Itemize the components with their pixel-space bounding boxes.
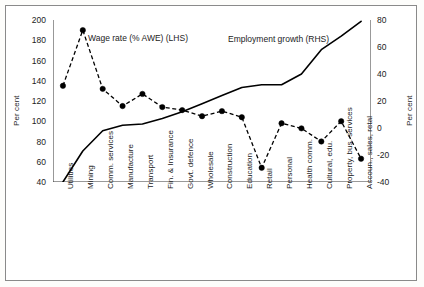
wage-point-3 bbox=[120, 103, 125, 108]
wage-point-8 bbox=[219, 108, 224, 113]
left-tick-label: 200 bbox=[20, 15, 46, 25]
left-tick-label: 40 bbox=[20, 177, 46, 187]
left-tick-label: 160 bbox=[20, 56, 46, 66]
wage-point-7 bbox=[199, 113, 204, 118]
right-tick-label: 60 bbox=[377, 42, 403, 52]
left-tick-label: 140 bbox=[20, 76, 46, 86]
wage-point-13 bbox=[319, 139, 324, 144]
wage-point-4 bbox=[140, 91, 145, 96]
wage-point-2 bbox=[100, 86, 105, 91]
wage-point-15 bbox=[358, 156, 363, 161]
wage-point-11 bbox=[279, 121, 284, 126]
axis-lines bbox=[53, 20, 371, 182]
right-tick-label: 20 bbox=[377, 96, 403, 106]
right-tick-label: 80 bbox=[377, 15, 403, 25]
wage-point-5 bbox=[160, 104, 165, 109]
wage-point-12 bbox=[299, 126, 304, 131]
right-tick-label: 0 bbox=[377, 123, 403, 133]
chart-figure: Per cent Per cent Wage rate (% AWE) (LHS… bbox=[0, 0, 424, 287]
left-tick-label: 80 bbox=[20, 137, 46, 147]
wage-point-10 bbox=[259, 165, 264, 170]
left-tick-label: 120 bbox=[20, 96, 46, 106]
plot-area bbox=[53, 20, 371, 182]
wage-point-1 bbox=[80, 27, 85, 32]
right-tick-label: -40 bbox=[377, 177, 403, 187]
right-axis-title: Per cent bbox=[405, 95, 414, 126]
wage-point-6 bbox=[179, 107, 184, 112]
chart-canvas bbox=[53, 20, 371, 182]
left-tick-label: 60 bbox=[20, 157, 46, 167]
tick-marks bbox=[53, 20, 371, 182]
left-tick-label: 180 bbox=[20, 35, 46, 45]
right-tick-label: -20 bbox=[377, 150, 403, 160]
employment-growth-line bbox=[63, 21, 361, 182]
left-tick-label: 100 bbox=[20, 116, 46, 126]
right-tick-label: 40 bbox=[377, 69, 403, 79]
wage-point-14 bbox=[338, 119, 343, 124]
wage-point-0 bbox=[60, 83, 65, 88]
wage-point-9 bbox=[239, 115, 244, 120]
